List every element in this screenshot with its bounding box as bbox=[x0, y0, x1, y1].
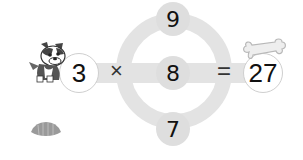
dog-icon bbox=[25, 40, 67, 84]
choice-node-bottom[interactable]: 7 bbox=[156, 112, 190, 146]
choice-middle-value: 8 bbox=[166, 61, 180, 86]
result-value: 27 bbox=[249, 58, 278, 89]
shell-icon bbox=[29, 120, 63, 138]
choice-node-middle[interactable]: 8 bbox=[156, 56, 190, 90]
choice-bottom-value: 7 bbox=[166, 117, 180, 142]
multiply-sign: × bbox=[110, 58, 123, 84]
choice-top-value: 9 bbox=[166, 7, 180, 32]
equals-sign: = bbox=[217, 57, 231, 85]
left-operand-value: 3 bbox=[72, 58, 86, 89]
bone-icon bbox=[241, 38, 287, 62]
multiplication-puzzle: 9 8 7 3 × = 27 bbox=[0, 0, 303, 160]
choice-node-top[interactable]: 9 bbox=[156, 2, 190, 36]
